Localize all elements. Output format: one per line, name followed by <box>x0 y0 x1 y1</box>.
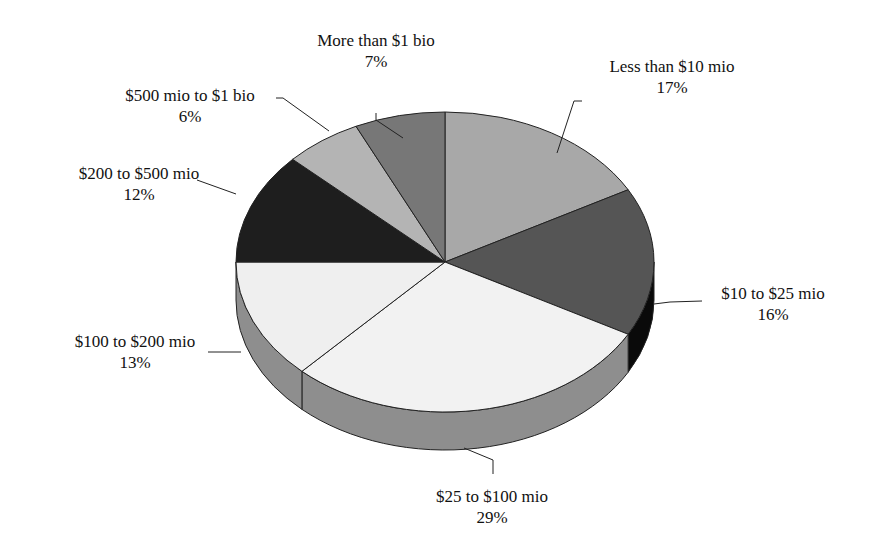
label-text: $25 to $100 mio <box>436 486 548 507</box>
label-more-than-1bio: More than $1 bio7% <box>317 30 435 72</box>
label-text: $500 mio to $1 bio <box>125 85 254 106</box>
label-10-to-25: $10 to $25 mio16% <box>721 283 824 325</box>
label-pct: 29% <box>436 507 548 528</box>
leader-line-5 <box>276 98 329 131</box>
label-pct: 16% <box>721 304 824 325</box>
leader-line-1 <box>654 301 702 304</box>
leader-line-4 <box>197 180 236 194</box>
label-pct: 7% <box>317 51 435 72</box>
leader-line-2 <box>464 448 493 474</box>
label-pct: 12% <box>79 184 199 205</box>
label-text: $200 to $500 mio <box>79 163 199 184</box>
label-less-than-10: Less than $10 mio17% <box>609 56 734 98</box>
label-text: More than $1 bio <box>317 30 435 51</box>
label-pct: 17% <box>609 77 734 98</box>
label-100-to-200: $100 to $200 mio13% <box>75 331 195 373</box>
label-text: $10 to $25 mio <box>721 283 824 304</box>
label-200-to-500: $200 to $500 mio12% <box>79 163 199 205</box>
label-text: $100 to $200 mio <box>75 331 195 352</box>
label-500-to-1bio: $500 mio to $1 bio6% <box>125 85 254 127</box>
label-pct: 6% <box>125 106 254 127</box>
pie-chart <box>0 0 875 551</box>
label-25-to-100: $25 to $100 mio29% <box>436 486 548 528</box>
label-pct: 13% <box>75 352 195 373</box>
label-text: Less than $10 mio <box>609 56 734 77</box>
